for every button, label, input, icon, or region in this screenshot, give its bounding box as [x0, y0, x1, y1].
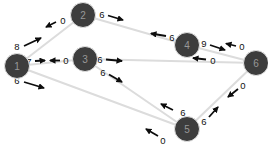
- direction-arrow-icon: [161, 104, 173, 110]
- graph-canvas: 8070666090606660 123456: [0, 0, 268, 145]
- weight-label: 6: [99, 9, 104, 20]
- graph-node-6[interactable]: 6: [244, 51, 269, 76]
- weight-label: 9: [201, 38, 206, 49]
- graph-node-1[interactable]: 1: [5, 54, 30, 79]
- edges-layer: [17, 15, 256, 129]
- weight-label: 6: [201, 116, 206, 127]
- direction-arrow-icon: [228, 89, 238, 97]
- direction-arrow-icon: [209, 107, 218, 117]
- direction-arrow-icon: [108, 16, 123, 21]
- weight-label: 0: [63, 55, 68, 66]
- weight-label: 6: [180, 107, 185, 118]
- graph-node-2[interactable]: 2: [71, 3, 96, 28]
- graph-node-5[interactable]: 5: [175, 117, 200, 142]
- weight-5-to-3: 6: [161, 104, 186, 118]
- direction-arrow-icon: [193, 58, 206, 60]
- node-label: 2: [80, 10, 86, 21]
- weight-label: 0: [160, 135, 165, 146]
- weight-5-to-6: 6: [201, 107, 218, 127]
- direction-arrow-icon: [226, 44, 236, 47]
- edge-5-6: [187, 63, 256, 129]
- weight-3-to-5: 6: [100, 67, 122, 83]
- direction-arrow-icon: [24, 38, 41, 46]
- node-label: 5: [184, 124, 190, 135]
- graph-diagram: 8070666090606660 123456: [0, 0, 268, 145]
- weight-label: 0: [210, 55, 215, 66]
- weight-6-to-4: 0: [226, 41, 245, 52]
- graph-node-4[interactable]: 4: [175, 33, 200, 58]
- weight-label: 6: [169, 32, 174, 43]
- node-label: 1: [14, 61, 20, 72]
- weight-label: 0: [239, 41, 244, 52]
- nodes-layer: 123456: [5, 3, 269, 142]
- weight-5-to-1: 0: [146, 129, 166, 145]
- weight-3-to-1: 0: [50, 55, 69, 66]
- direction-arrow-icon: [210, 45, 225, 50]
- node-label: 6: [253, 58, 259, 69]
- weight-label: 8: [14, 41, 19, 52]
- graph-node-3[interactable]: 3: [73, 47, 98, 72]
- direction-arrow-icon: [24, 82, 44, 88]
- direction-arrow-icon: [46, 22, 56, 27]
- node-label: 3: [82, 54, 88, 65]
- weight-4-to-6: 9: [201, 38, 225, 51]
- weight-label: 6: [100, 67, 105, 78]
- weight-label: 0: [240, 80, 245, 91]
- node-label: 4: [184, 40, 190, 51]
- weight-label: 6: [97, 54, 102, 65]
- weight-6-to-3: 0: [193, 55, 216, 66]
- weight-label: 0: [60, 15, 65, 26]
- weight-2-to-4: 6: [99, 9, 123, 21]
- direction-arrow-icon: [35, 61, 45, 62]
- direction-arrow-icon: [146, 129, 158, 136]
- weight-2-to-1: 0: [46, 15, 66, 28]
